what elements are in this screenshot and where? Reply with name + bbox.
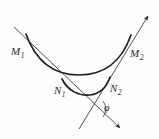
- label-n1-sub: 1: [62, 90, 66, 99]
- point-label-m1: M1: [11, 46, 24, 57]
- label-n2-sub: 2: [118, 88, 122, 97]
- label-m2-base: M: [130, 47, 139, 59]
- label-m1-sub: 1: [21, 51, 25, 60]
- geometry-figure: M1 M2 N1 N2 φ: [0, 0, 159, 139]
- label-m2-sub: 2: [140, 53, 144, 62]
- point-label-n2: N2: [110, 83, 122, 94]
- secant-right-line: [79, 16, 148, 129]
- label-n2-base: N: [110, 82, 118, 94]
- label-n1-base: N: [54, 84, 62, 96]
- angle-label-phi: φ: [104, 103, 110, 113]
- figure-canvas: [0, 0, 159, 139]
- point-label-m2: M2: [130, 48, 143, 59]
- label-m1-base: M: [11, 45, 20, 57]
- point-label-n1: N1: [54, 85, 66, 96]
